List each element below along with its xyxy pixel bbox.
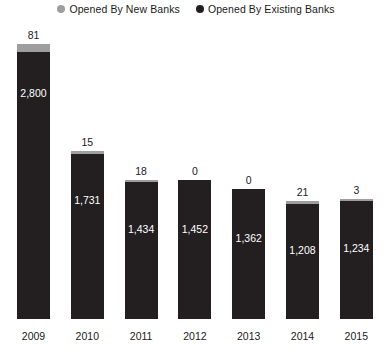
bar-inner-value-label: 1,208	[286, 244, 319, 256]
bar-group: 181,4342011	[125, 0, 158, 347]
bar-segment-existing-banks[interactable]	[178, 180, 211, 319]
bar-inner-value-label: 1,731	[71, 194, 104, 206]
bar-top-value-label: 0	[178, 165, 211, 177]
bar-segment-existing-banks[interactable]	[125, 182, 158, 319]
stacked-bar[interactable]	[17, 44, 50, 319]
x-axis-label-2010: 2010	[71, 330, 104, 342]
bar-top-value-label: 21	[286, 186, 319, 198]
bar-segment-existing-banks[interactable]	[232, 189, 265, 319]
bar-inner-value-label: 2,800	[17, 87, 50, 99]
bar-top-value-label: 81	[17, 29, 50, 41]
bar-top-value-label: 0	[232, 174, 265, 186]
bar-group: 812,8002009	[17, 0, 50, 347]
bar-inner-value-label: 1,362	[232, 232, 265, 244]
bar-group: 01,3622013	[232, 0, 265, 347]
x-axis-label-2013: 2013	[232, 330, 265, 342]
bar-top-value-label: 15	[71, 136, 104, 148]
stacked-bar[interactable]	[340, 199, 373, 319]
bar-segment-new-banks[interactable]	[125, 180, 158, 183]
bar-segment-existing-banks[interactable]	[340, 201, 373, 319]
stacked-bar[interactable]	[286, 201, 319, 319]
bar-group: 01,4522012	[178, 0, 211, 347]
bar-segment-existing-banks[interactable]	[71, 154, 104, 319]
bar-inner-value-label: 1,452	[178, 223, 211, 235]
bar-group: 151,7312010	[71, 0, 104, 347]
stacked-bar[interactable]	[178, 180, 211, 319]
stacked-bar[interactable]	[71, 151, 104, 319]
stacked-bar[interactable]	[232, 189, 265, 319]
bar-inner-value-label: 1,434	[125, 223, 158, 235]
x-axis-label-2014: 2014	[286, 330, 319, 342]
x-axis-label-2011: 2011	[125, 330, 158, 342]
bar-segment-new-banks[interactable]	[17, 44, 50, 52]
bar-segment-new-banks[interactable]	[340, 199, 373, 202]
bar-inner-value-label: 1,234	[340, 242, 373, 254]
bar-group: 31,2342015	[340, 0, 373, 347]
bar-top-value-label: 18	[125, 165, 158, 177]
bar-group: 211,2082014	[286, 0, 319, 347]
x-axis-label-2012: 2012	[178, 330, 211, 342]
x-axis-label-2015: 2015	[340, 330, 373, 342]
stacked-bar[interactable]	[125, 180, 158, 319]
bar-segment-existing-banks[interactable]	[286, 204, 319, 319]
x-axis-label-2009: 2009	[17, 330, 50, 342]
bar-chart-plot-area: 812,8002009151,7312010181,434201101,4522…	[0, 0, 392, 347]
bar-segment-new-banks[interactable]	[71, 151, 104, 154]
bar-top-value-label: 3	[340, 184, 373, 196]
bar-segment-new-banks[interactable]	[286, 201, 319, 204]
